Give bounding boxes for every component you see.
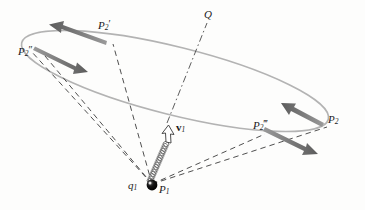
label-p2-dprime-base: P xyxy=(18,45,25,57)
label-p2-tprime-primes: ‴ xyxy=(263,118,267,129)
label-p2-prime: P2′ xyxy=(98,19,110,32)
label-p2-double-prime: P2″ xyxy=(18,45,32,58)
label-q1-sub: 1 xyxy=(134,183,138,192)
label-p1-base: P xyxy=(159,183,166,195)
label-p2-dprime-primes: ″ xyxy=(28,44,32,55)
label-p2-sub: 2 xyxy=(335,117,339,126)
dashed-ray-group xyxy=(31,44,327,184)
label-p2-prime-base: P xyxy=(98,19,105,31)
label-p1-sub: 1 xyxy=(166,187,170,196)
label-v1-sub: 1 xyxy=(182,125,186,134)
label-p2-triple-prime: P2‴ xyxy=(253,119,267,132)
label-p2: P2 xyxy=(328,114,338,126)
label-p2-base: P xyxy=(328,113,335,125)
velocity-arrow-left-lower xyxy=(33,47,88,75)
velocity-arrow-right-upper xyxy=(281,103,324,127)
label-q-point: Q xyxy=(204,9,212,20)
label-q-base: Q xyxy=(204,8,212,20)
label-q1-charge: q1 xyxy=(128,180,137,192)
dashed-ray-to-p2 xyxy=(152,127,327,184)
label-p2-prime-primes: ′ xyxy=(108,18,110,29)
label-p2-tprime-base: P xyxy=(253,119,260,131)
diagram-canvas xyxy=(0,0,365,210)
orbit-ellipse xyxy=(13,10,336,152)
dashed-ray-to-p2-dprime-b xyxy=(40,50,152,184)
label-p1: P1 xyxy=(159,184,169,196)
helical-path-coil xyxy=(147,141,170,185)
physics-diagram-figure: P2″ P2′ Q P2 P2‴ v1 q1 P1 xyxy=(0,0,365,210)
label-v1-vector: v1 xyxy=(176,122,185,134)
dashdot-line-to-q xyxy=(167,23,207,123)
v1-vector-arrow xyxy=(162,125,174,143)
particle-q1-marker xyxy=(147,180,158,191)
